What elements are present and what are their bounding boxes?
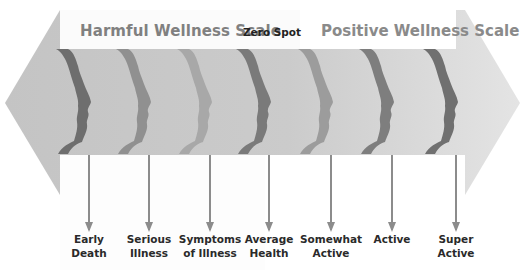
arrow-down-icon (388, 222, 396, 232)
stage-label-line1: Super (416, 232, 496, 246)
stage-pointer-line (209, 155, 211, 230)
zero-spot-title: Zero Spot (243, 26, 301, 38)
arrow-down-icon (206, 222, 214, 232)
stage-pointer-line (391, 155, 393, 230)
arrow-down-icon (327, 222, 335, 232)
arrow-down-icon (145, 222, 153, 232)
stage-pointer-line (268, 155, 270, 230)
positive-scale-title: Positive Wellness Scale (321, 22, 519, 40)
stage-pointer-line (148, 155, 150, 230)
stage-pointer-line (88, 155, 90, 230)
stage-label-line2: Active (291, 246, 371, 260)
stage-label-line2: Active (416, 246, 496, 260)
stage-pointer-line (455, 155, 457, 230)
arrow-down-icon (85, 222, 93, 232)
arrow-down-icon (452, 222, 460, 232)
arrow-down-icon (265, 222, 273, 232)
wellness-scale-diagram: Harmful Wellness Scale Zero Spot Positiv… (0, 0, 525, 270)
stage-label: SuperActive (416, 232, 496, 260)
stage-pointer-line (330, 155, 332, 230)
